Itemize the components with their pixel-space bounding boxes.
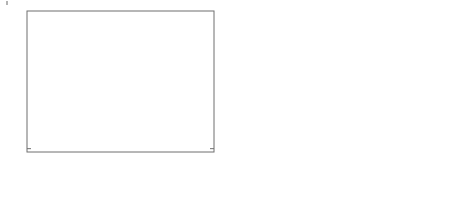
panel-a-plot-area — [27, 11, 214, 152]
panel-b-gene2 — [228, 0, 456, 198]
panel-b-svg — [228, 0, 456, 198]
boxplot-figure — [0, 0, 456, 198]
panel-a-svg — [0, 0, 228, 198]
panel-a-gene1 — [0, 0, 228, 198]
plot-frame — [27, 11, 214, 152]
